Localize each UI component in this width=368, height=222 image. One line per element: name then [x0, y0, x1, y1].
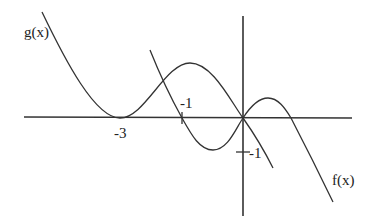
g-label: g(x) — [24, 24, 49, 41]
x-tick-neg1-label: -1 — [180, 95, 193, 111]
f-curve — [150, 50, 333, 202]
x-tick-neg3-label: -3 — [114, 125, 127, 141]
function-graph: g(x) f(x) -3 -1 -1 — [0, 0, 368, 222]
g-curve — [42, 12, 273, 168]
y-tick-neg1-label: -1 — [249, 145, 262, 161]
f-label: f(x) — [332, 172, 355, 189]
x-axis — [24, 117, 352, 118]
